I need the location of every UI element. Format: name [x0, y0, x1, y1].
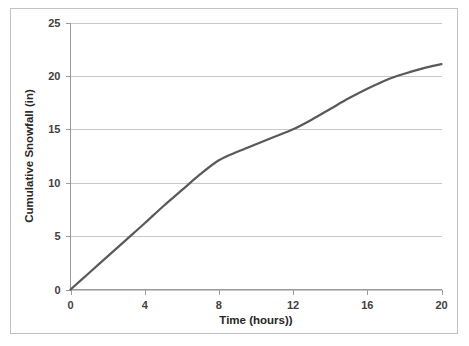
x-tick-label-16: 16: [361, 299, 373, 311]
y-tick-label-15: 15: [48, 123, 60, 135]
x-tick-label-20: 20: [435, 299, 447, 311]
line-chart-plot: 0510152025 048121620 Cumulative Snowfall…: [11, 9, 457, 333]
x-tick-label-12: 12: [287, 299, 299, 311]
tick-mark-group: [66, 24, 443, 295]
y-tick-label-10: 10: [48, 177, 60, 189]
chart-figure: 0510152025 048121620 Cumulative Snowfall…: [10, 8, 458, 334]
gridline-group: [71, 24, 442, 291]
x-tick-label-4: 4: [142, 299, 149, 311]
x-axis-title: Time (hours)): [219, 314, 292, 326]
x-tick-label-8: 8: [216, 299, 222, 311]
x-tick-label-group: 048121620: [67, 299, 447, 311]
y-tick-label-25: 25: [48, 17, 60, 29]
y-axis-title: Cumulative Snowfall (in): [23, 89, 35, 223]
y-tick-label-20: 20: [48, 70, 60, 82]
y-tick-label-5: 5: [54, 230, 60, 242]
y-tick-label-group: 0510152025: [48, 17, 60, 296]
y-tick-label-0: 0: [54, 284, 60, 296]
x-tick-label-0: 0: [67, 299, 73, 311]
snowfall-data-line: [71, 64, 442, 289]
